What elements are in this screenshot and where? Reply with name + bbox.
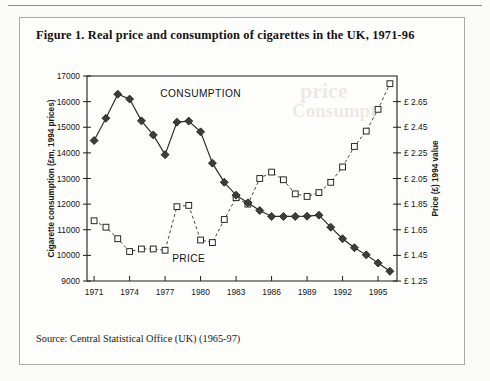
svg-text:£ 2.25: £ 2.25 [404, 148, 428, 158]
page-background: Figure 1. Real price and consumption of … [0, 0, 490, 381]
svg-text:PRICE: PRICE [172, 253, 205, 264]
y-axis-tick-labels: 9000100001100012000130001400015000160001… [57, 71, 81, 286]
svg-text:£ 1.25: £ 1.25 [404, 276, 428, 286]
chart-plot-area: 9000100001100012000130001400015000160001… [40, 60, 450, 310]
svg-text:£ 1.85: £ 1.85 [404, 199, 428, 209]
y2-axis-tick-labels: £ 1.25£ 1.45£ 1.65£ 1.85£ 2.05£ 2.25£ 2.… [404, 97, 428, 286]
svg-text:13000: 13000 [57, 174, 81, 184]
svg-text:£ 1.45: £ 1.45 [404, 250, 428, 260]
svg-text:1989: 1989 [298, 287, 317, 297]
svg-text:£ 2.65: £ 2.65 [404, 97, 428, 107]
svg-text:12000: 12000 [57, 199, 81, 209]
svg-text:16000: 16000 [57, 97, 81, 107]
svg-text:15000: 15000 [57, 122, 81, 132]
svg-text:1974: 1974 [120, 287, 139, 297]
svg-text:Cigarette consumption (£m, 199: Cigarette consumption (£m, 1994 prices) [47, 99, 56, 257]
svg-text:1983: 1983 [227, 287, 246, 297]
series-price [91, 81, 393, 255]
svg-text:Price (£) 1994 value: Price (£) 1994 value [431, 140, 440, 216]
svg-text:£ 1.65: £ 1.65 [404, 225, 428, 235]
svg-text:17000: 17000 [57, 71, 81, 81]
svg-text:CONSUMPTION: CONSUMPTION [160, 88, 241, 99]
svg-text:14000: 14000 [57, 148, 81, 158]
svg-text:1971: 1971 [85, 287, 104, 297]
figure-title: Figure 1. Real price and consumption of … [36, 28, 456, 43]
chart-axis-titles: YearCigarette consumption (£m, 1994 pric… [47, 99, 440, 310]
svg-text:9000: 9000 [61, 276, 80, 286]
source-note: Source: Central Statistical Office (UK) … [36, 333, 240, 344]
series-consumption [90, 90, 394, 275]
svg-text:£ 2.45: £ 2.45 [404, 122, 428, 132]
svg-text:1980: 1980 [191, 287, 210, 297]
x-axis-tick-labels: 197119741977198019831986198919921995 [85, 287, 388, 297]
svg-text:1992: 1992 [333, 287, 352, 297]
svg-text:£ 2.05: £ 2.05 [404, 174, 428, 184]
svg-text:11000: 11000 [57, 225, 80, 235]
chart-svg: 9000100001100012000130001400015000160001… [40, 60, 450, 310]
svg-text:1995: 1995 [369, 287, 388, 297]
svg-text:10000: 10000 [57, 250, 81, 260]
page-top-rule [8, 5, 482, 6]
svg-text:1977: 1977 [156, 287, 175, 297]
svg-text:1986: 1986 [262, 287, 281, 297]
